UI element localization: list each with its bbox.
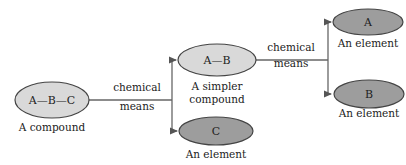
connector-stage-1 — [89, 60, 177, 131]
formula-b: B — [365, 88, 373, 101]
caption-element-b: An element — [338, 107, 400, 119]
caption-simpler: A simpler — [191, 80, 244, 92]
node-element-a: A An element — [333, 9, 403, 49]
caption-element-a: An element — [337, 37, 399, 49]
edge-label-2-line1: chemical — [267, 41, 315, 53]
edge-label-1-line2: means — [120, 100, 155, 112]
formula-ab: A—B — [202, 54, 230, 67]
caption-element-c: An element — [185, 148, 247, 160]
edge-label-1-line1: chemical — [113, 81, 161, 93]
node-compound-abc: A—B—C A compound — [15, 82, 89, 133]
node-element-c: C An element — [179, 117, 253, 160]
formula-c: C — [212, 125, 220, 138]
edge-label-2-line2: means — [274, 57, 309, 69]
caption-simpler-compound: compound — [189, 93, 245, 105]
caption-compound: A compound — [18, 121, 86, 133]
node-element-b: B An element — [334, 80, 404, 119]
decomposition-diagram: A—B—C A compound chemical means A—B A si… — [0, 0, 406, 165]
node-simpler-compound-ab: A—B A simpler compound — [178, 44, 256, 105]
formula-abc: A—B—C — [28, 94, 75, 107]
formula-a: A — [363, 16, 373, 29]
